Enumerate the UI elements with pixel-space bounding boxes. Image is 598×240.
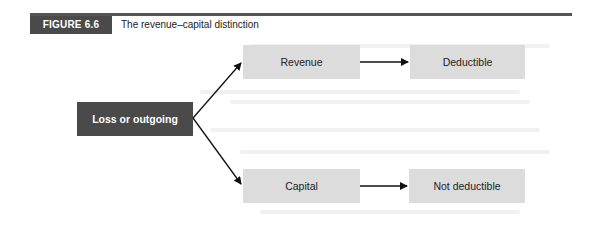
node-deductible: Deductible <box>410 45 525 79</box>
arrow-to-capital <box>193 118 241 184</box>
node-not-deductible: Not deductible <box>409 169 525 203</box>
node-capital: Capital <box>243 169 360 203</box>
arrow-to-revenue <box>193 63 241 118</box>
node-loss-or-outgoing: Loss or outgoing <box>77 102 193 136</box>
node-revenue: Revenue <box>243 45 360 79</box>
